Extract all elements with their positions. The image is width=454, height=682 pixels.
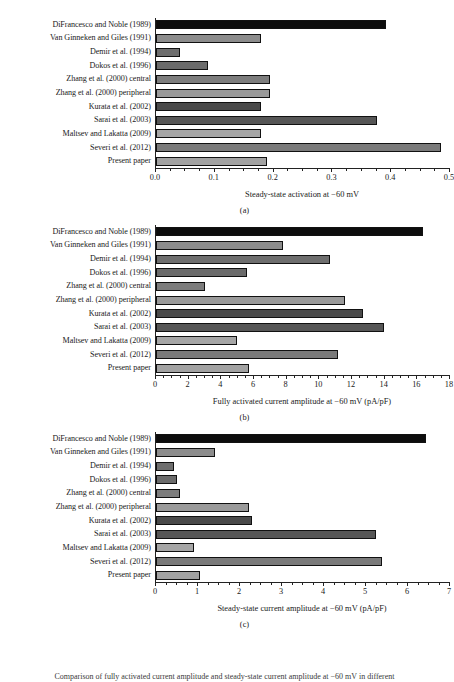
axis-tick-minor (327, 375, 328, 378)
axis-tick-label: 8 (284, 380, 288, 389)
axis-tick-major (318, 375, 319, 379)
axis-tick-label: 16 (412, 380, 420, 389)
axis-tick-major (351, 375, 352, 379)
axis-tick-label: 3 (279, 587, 283, 596)
category-label: DiFrancesco and Noble (1989) (0, 432, 151, 446)
axis-tick-minor (313, 582, 314, 585)
axis-tick-major (281, 582, 282, 586)
axis-tick-label: 0.3 (326, 173, 336, 182)
axis-tick-minor (294, 375, 295, 378)
axis-tick-minor (229, 168, 230, 171)
category-label: Severi et al. (2012) (0, 141, 151, 155)
axis-tick-minor (433, 375, 434, 378)
axis-tick-minor (386, 582, 387, 585)
bar (156, 296, 345, 305)
axis-tick-minor (376, 375, 377, 378)
bar-row (156, 225, 449, 239)
bar-row (156, 266, 449, 280)
bar-row (156, 320, 449, 334)
axis-tick-minor (261, 375, 262, 378)
bar (156, 434, 426, 443)
bar (156, 309, 363, 318)
axis-tick-minor (376, 168, 377, 171)
axis-tick-minor (245, 375, 246, 378)
bar (156, 227, 423, 236)
axis-tick-minor (166, 582, 167, 585)
axis-tick-minor (229, 375, 230, 378)
bar (156, 448, 215, 457)
category-label: Sarai et al. (2003) (0, 113, 151, 127)
x-axis-c: 01234567 (155, 582, 449, 602)
bar (156, 20, 386, 29)
bar-row (156, 18, 449, 32)
bar (156, 323, 384, 332)
axis-tick-major (155, 375, 156, 379)
axis-tick-minor (237, 375, 238, 378)
bar (156, 241, 283, 250)
axis-tick-label: 0.5 (444, 173, 454, 182)
category-label: Severi et al. (2012) (0, 555, 151, 569)
axis-tick-minor (302, 375, 303, 378)
axis-tick-major (220, 375, 221, 379)
bar-row (156, 59, 449, 73)
category-labels-c: DiFrancesco and Noble (1989)Van Ginneken… (0, 432, 155, 582)
bar-row (156, 514, 449, 528)
axis-tick-major (155, 168, 156, 172)
axis-tick-major (286, 375, 287, 379)
axis-tick-label: 10 (314, 380, 322, 389)
bar-row (156, 141, 449, 155)
axis-tick-label: 6 (251, 380, 255, 389)
category-label: Kurata et al. (2002) (0, 100, 151, 114)
axis-tick-major (449, 375, 450, 379)
bar (156, 543, 194, 552)
bar-row (156, 500, 449, 514)
bar (156, 503, 249, 512)
category-label: Present paper (0, 154, 151, 168)
axis-tick-minor (163, 375, 164, 378)
axis-tick-minor (392, 375, 393, 378)
axis-tick-label: 2 (186, 380, 190, 389)
category-label: Present paper (0, 361, 151, 375)
x-axis-title-b: Fully activated current amplitude at −60… (0, 397, 449, 406)
bar-row (156, 527, 449, 541)
axis-tick-minor (361, 168, 362, 171)
axis-tick-minor (208, 582, 209, 585)
axis-tick-minor (420, 168, 421, 171)
bar-row (156, 432, 449, 446)
bar-row (156, 473, 449, 487)
axis-tick-minor (271, 582, 272, 585)
axis-tick-minor (335, 375, 336, 378)
bar-row (156, 280, 449, 294)
axis-tick-major (449, 168, 450, 172)
axis-tick-major (197, 582, 198, 586)
axis-tick-major (323, 582, 324, 586)
bar (156, 475, 177, 484)
axis-tick-minor (343, 375, 344, 378)
axis-tick-label: 18 (445, 380, 453, 389)
bar-row (156, 127, 449, 141)
category-label: Dokos et al. (1996) (0, 266, 151, 280)
axis-tick-minor (287, 168, 288, 171)
axis-tick-minor (334, 582, 335, 585)
bar (156, 255, 330, 264)
axis-tick-label: 0.1 (209, 173, 219, 182)
axis-tick-label: 1 (195, 587, 199, 596)
plot-area-a (155, 18, 449, 168)
bar-row (156, 555, 449, 569)
axis-tick-label: 0.0 (150, 173, 160, 182)
category-label: Van Ginneken and Giles (1991) (0, 446, 151, 460)
axis-tick-minor (425, 375, 426, 378)
category-labels-a: DiFrancesco and Noble (1989)Van Ginneken… (0, 18, 155, 168)
axis-tick-minor (176, 582, 177, 585)
figure-caption: Comparison of fully activated current am… (0, 672, 449, 681)
axis-tick-minor (359, 375, 360, 378)
axis-tick-minor (212, 375, 213, 378)
axis-tick-minor (260, 582, 261, 585)
category-label: Dokos et al. (1996) (0, 473, 151, 487)
category-label: Zhang et al. (2000) peripheral (0, 293, 151, 307)
axis-tick-major (331, 168, 332, 172)
bar (156, 75, 270, 84)
bar-row (156, 252, 449, 266)
bar (156, 89, 270, 98)
